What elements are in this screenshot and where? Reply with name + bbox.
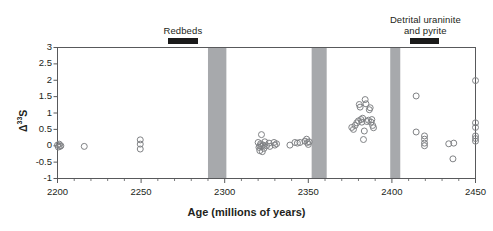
- y-tick-label: 2.5: [20, 57, 52, 68]
- x-axis-label: Age (millions of years): [0, 206, 493, 218]
- x-tick-label: 2300: [200, 186, 250, 197]
- y-tick-label: -1: [20, 172, 52, 183]
- y-tick-label: 0.5: [20, 123, 52, 134]
- figure-root: Δ33S Age (millions of years) -1-0.500.51…: [0, 0, 493, 231]
- data-point: [413, 129, 419, 135]
- band-2290-2300: [208, 48, 226, 179]
- x-tick-label: 2250: [116, 186, 166, 197]
- shaded-bands: [208, 48, 400, 179]
- data-point: [258, 132, 264, 138]
- annotation-label-detrital-uraninite-and-pyrite: Detrital uraninite and pyrite: [350, 14, 493, 36]
- y-tick-label: 0: [20, 139, 52, 150]
- data-point: [450, 156, 456, 162]
- y-tick-label: -0.5: [20, 156, 52, 167]
- x-tick-label: 2450: [451, 186, 493, 197]
- x-tick-label: 2350: [283, 186, 333, 197]
- data-point: [360, 137, 366, 143]
- plot-frame: [58, 48, 476, 179]
- band-2399-2405: [390, 48, 400, 179]
- y-tick-label: 1.5: [20, 90, 52, 101]
- y-tick-label: 1: [20, 107, 52, 118]
- x-tick-label: 2400: [367, 186, 417, 197]
- x-tick-label: 2200: [33, 186, 83, 197]
- y-tick-label: 3: [20, 41, 52, 52]
- data-points: [55, 78, 479, 162]
- data-point: [81, 143, 87, 149]
- annotation-bar-redbeds: [168, 38, 198, 44]
- x-axis-ticks: [58, 179, 476, 184]
- y-axis-ticks: [54, 48, 58, 179]
- annotation-bar-detrital-uraninite-and-pyrite: [410, 38, 438, 44]
- data-point: [413, 93, 419, 99]
- y-tick-label: 2: [20, 74, 52, 85]
- annotation-label-redbeds: Redbeds: [108, 25, 258, 36]
- band-2352-2360: [312, 48, 327, 179]
- data-point: [361, 128, 367, 134]
- data-point: [367, 105, 373, 111]
